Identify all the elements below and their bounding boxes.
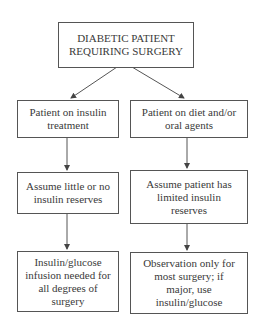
- node-text: Insulin/glucose infusion needed for all …: [22, 256, 114, 308]
- node-text: Patient on diet and/or oral agents: [135, 106, 243, 132]
- node-diet-oral-agents: Patient on diet and/or oral agents: [130, 100, 248, 138]
- node-insulin-glucose-infusion: Insulin/glucose infusion needed for all …: [17, 251, 119, 312]
- arrow-root-to-insulin: [71, 67, 117, 98]
- arrow-root-to-diet: [132, 67, 184, 98]
- node-text: Observation only for most surgery; if ma…: [141, 257, 237, 309]
- node-text: Assume patient has limited insulin reser…: [143, 178, 235, 217]
- node-text: Assume little or no insulin reserves: [22, 180, 114, 206]
- root-node: DIABETIC PATIENT REQUIRING SURGERY: [58, 22, 194, 68]
- root-node-text: DIABETIC PATIENT REQUIRING SURGERY: [63, 32, 189, 58]
- node-little-insulin-reserves: Assume little or no insulin reserves: [17, 172, 119, 214]
- node-limited-insulin-reserves: Assume patient has limited insulin reser…: [130, 170, 248, 224]
- node-text: Patient on insulin treatment: [22, 106, 114, 132]
- node-observation-only: Observation only for most surgery; if ma…: [130, 252, 248, 314]
- node-insulin-treatment: Patient on insulin treatment: [17, 100, 119, 138]
